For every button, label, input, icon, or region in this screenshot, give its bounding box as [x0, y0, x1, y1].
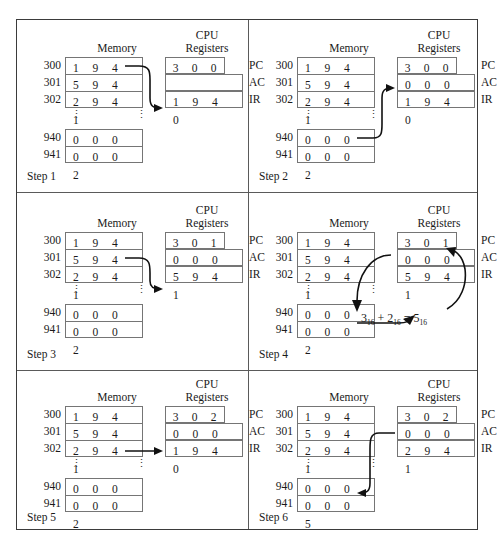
memory-address: 941	[35, 495, 61, 512]
digit: 9	[86, 95, 106, 110]
digit: 1	[398, 95, 418, 110]
ellipsis-left: ⋮	[71, 461, 82, 466]
digit: 4	[105, 444, 125, 459]
digit: 0	[298, 499, 318, 514]
ir-label: IR	[481, 440, 493, 457]
pc-register-box: 300	[397, 57, 457, 74]
step-label-1: Step 1	[27, 170, 56, 182]
digit: 4	[337, 95, 357, 110]
memory-address: 300	[267, 57, 293, 74]
ellipsis-right: ⋮	[136, 112, 147, 117]
digit: 0	[66, 325, 86, 340]
digit: 0	[318, 150, 338, 165]
memory-cells: 0002	[65, 146, 143, 163]
memory-address: 941	[267, 146, 293, 163]
digit: 4	[105, 270, 125, 285]
memory-cells: 1940	[297, 232, 375, 249]
digit: 2	[66, 168, 86, 183]
digit: 1	[166, 288, 186, 303]
memory-header: Memory	[297, 391, 401, 403]
figure-container: Memory CPU Registers 300 1940 301 5941	[16, 19, 478, 530]
ir-register-box: 1940	[165, 91, 243, 108]
digit: 4	[105, 95, 125, 110]
digit: 9	[186, 444, 206, 459]
ac-register-box	[165, 74, 243, 91]
memory-header: Memory	[297, 42, 401, 54]
digit: 4	[437, 95, 457, 110]
digit: 9	[418, 95, 438, 110]
ac-label: AC	[481, 74, 497, 91]
digit: 1	[166, 95, 186, 110]
digit: 0	[86, 150, 106, 165]
ir-label: IR	[481, 91, 493, 108]
ellipsis-left: ⋮	[71, 287, 82, 292]
digit: 0	[166, 113, 186, 128]
ellipsis-right: ⋮	[136, 287, 147, 292]
digit: 0	[298, 150, 318, 165]
memory-address: 940	[267, 304, 293, 321]
digit: 9	[86, 270, 106, 285]
digit: 2	[66, 517, 86, 532]
digit: 4	[437, 444, 457, 459]
memory-address: 300	[35, 57, 61, 74]
digit: 1	[398, 462, 418, 477]
memory-address: 302	[35, 91, 61, 108]
memory-cells: 0003	[297, 478, 375, 495]
memory-cells: 2941	[297, 440, 375, 457]
ellipsis-left: ⋮	[303, 112, 314, 117]
operand-b-base: 16	[393, 318, 401, 327]
digit: 0	[398, 113, 418, 128]
digit: 0	[66, 150, 86, 165]
cpu-header-line2: Registers	[389, 391, 489, 403]
memory-address: 300	[35, 232, 61, 249]
memory-address: 302	[35, 266, 61, 283]
memory-cells: 0002	[65, 495, 143, 512]
digit: 0	[105, 325, 125, 340]
digit: 9	[418, 444, 438, 459]
cpu-header-line1: CPU	[157, 378, 257, 390]
digit: 5	[166, 270, 186, 285]
memory-header: Memory	[297, 217, 401, 229]
digit: 9	[186, 270, 206, 285]
memory-cells: 5941	[297, 423, 375, 440]
cpu-header-line2: Registers	[389, 217, 489, 229]
memory-address: 940	[35, 129, 61, 146]
digit: 4	[337, 444, 357, 459]
pc-register-box: 302	[397, 406, 457, 423]
cpu-header-line1: CPU	[389, 378, 489, 390]
memory-address: 300	[267, 406, 293, 423]
ac-register-box: 0003	[397, 74, 475, 91]
memory-cells: 0003	[65, 129, 143, 146]
ir-register-box: 1940	[397, 91, 475, 108]
memory-cells: 5941	[297, 249, 375, 266]
step-panel-4: Memory CPU Registers 300 1940 301 5941	[249, 193, 479, 370]
ac-label: AC	[481, 249, 497, 266]
digit: 0	[166, 462, 186, 477]
digit: 9	[186, 95, 206, 110]
memory-address: 940	[267, 129, 293, 146]
memory-address: 941	[35, 146, 61, 163]
memory-address: 300	[267, 232, 293, 249]
pc-label: PC	[481, 232, 495, 249]
ir-register-box: 1940	[165, 440, 243, 457]
cpu-header-line1: CPU	[389, 204, 489, 216]
digit: 9	[418, 270, 438, 285]
memory-cells: 2941	[65, 440, 143, 457]
memory-address: 302	[267, 266, 293, 283]
memory-address: 301	[267, 423, 293, 440]
step-panel-6: Memory CPU Registers 300 1940 301 5941	[249, 371, 479, 531]
digit: 9	[318, 95, 338, 110]
cpu-header-line2: Registers	[157, 391, 257, 403]
memory-cells: 2941	[297, 91, 375, 108]
digit: 4	[205, 95, 225, 110]
ellipsis-right: ⋮	[368, 287, 379, 292]
digit: 0	[318, 325, 338, 340]
ellipsis-left: ⋮	[303, 287, 314, 292]
memory-address: 302	[35, 440, 61, 457]
memory-cells: 0003	[65, 478, 143, 495]
memory-cells: 5941	[65, 423, 143, 440]
memory-address: 940	[35, 304, 61, 321]
cpu-header-line2: Registers	[157, 42, 257, 54]
step-panel-5: Memory CPU Registers 300 1940 301 5941	[17, 371, 248, 531]
step-label-3: Step 3	[27, 348, 56, 360]
